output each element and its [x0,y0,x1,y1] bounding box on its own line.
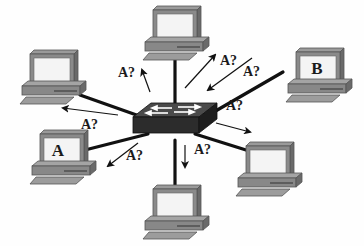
broadcast-label: A? [243,64,260,79]
host-label-a: A [52,141,65,160]
broadcast-label: A? [226,98,243,113]
broadcast-label: A? [118,65,135,80]
arrow-icon [63,108,118,115]
host-top [143,6,209,60]
host-upper-left [20,50,86,104]
host-b: B [286,48,352,102]
broadcast-label: A? [220,53,237,68]
broadcast-label: A? [81,117,98,132]
host-right [236,142,302,196]
switch-icon [133,103,217,133]
host-a: A [30,130,96,184]
host-bottom [143,185,209,239]
network-diagram: B A A? A? A? A? A? A? A? [0,0,364,246]
arrow-icon [216,123,250,132]
broadcast-label: A? [126,148,143,163]
arrow-icon [142,70,150,92]
broadcast-label: A? [194,142,211,157]
host-label-b: B [311,59,322,78]
